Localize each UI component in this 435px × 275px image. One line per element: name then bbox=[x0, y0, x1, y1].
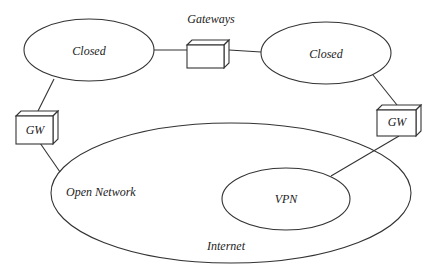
edge-gw-left-to-internet bbox=[40, 143, 60, 172]
gw-left-label: GW bbox=[26, 123, 46, 137]
edge-gateway-to-closed-right bbox=[229, 50, 261, 52]
gateways-label: Gateways bbox=[187, 12, 235, 26]
vpn-label: VPN bbox=[275, 192, 299, 206]
closed-right-label: Closed bbox=[309, 47, 343, 61]
internet-label: Internet bbox=[206, 239, 246, 253]
edge-closed-left-to-gw-left bbox=[38, 79, 54, 111]
network-diagram: Gateways Closed Closed GW GW Open Networ… bbox=[0, 0, 435, 275]
edge-closed-right-to-gw-right bbox=[373, 75, 397, 105]
gateway-box-center bbox=[187, 40, 229, 68]
gw-right-label: GW bbox=[388, 115, 408, 129]
edge-gw-right-to-vpn bbox=[331, 136, 399, 176]
open-network-label: Open Network bbox=[66, 185, 136, 199]
closed-left-label: Closed bbox=[72, 44, 106, 58]
